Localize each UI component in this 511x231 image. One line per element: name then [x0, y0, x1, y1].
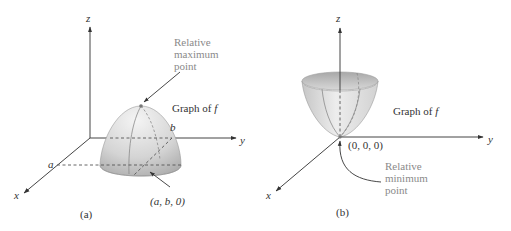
panel-caption-b: (b)	[336, 206, 349, 219]
panel-a: z y x a b Relative maximum point Graph o…	[13, 12, 245, 221]
y-tick-b: b	[170, 121, 176, 133]
x-axis-label: x	[13, 189, 19, 201]
callout-line-1: Relative	[385, 160, 422, 172]
callout-line-3: point	[174, 60, 197, 72]
callout-line-2: maximum	[174, 48, 219, 60]
x-axis-label: x	[265, 189, 271, 201]
x-axis	[24, 138, 90, 193]
callout-line-2: minimum	[385, 172, 428, 184]
dome-surface	[100, 106, 181, 176]
z-axis-label: z	[335, 12, 341, 24]
x-axis	[276, 137, 340, 191]
point-label: (0, 0, 0)	[348, 139, 383, 152]
figure: z y x a b Relative maximum point Graph o…	[0, 0, 511, 231]
callout-line-3: point	[385, 184, 408, 196]
panel-caption-a: (a)	[80, 208, 93, 221]
panel-b: z y x Graph of f (0, 0, 0) Relative mini…	[265, 12, 493, 219]
callout-arrow	[144, 72, 180, 102]
callout-line-1: Relative	[174, 36, 211, 48]
z-axis-label: z	[85, 12, 91, 24]
max-point-dot	[139, 104, 143, 108]
point-label: (a, b, 0)	[150, 195, 185, 208]
graph-label: Graph of f	[172, 102, 219, 114]
graph-label: Graph of f	[393, 105, 440, 117]
y-axis-label: y	[239, 134, 245, 146]
min-point-dot	[338, 135, 341, 138]
y-axis-label: y	[487, 133, 493, 145]
x-tick-a: a	[48, 158, 54, 170]
